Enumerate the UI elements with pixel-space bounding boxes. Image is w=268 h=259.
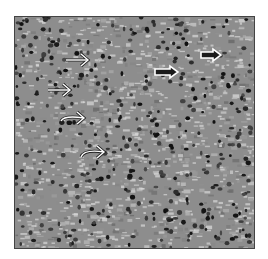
tissue-texture [15,17,254,248]
micrograph-figure [14,16,255,249]
